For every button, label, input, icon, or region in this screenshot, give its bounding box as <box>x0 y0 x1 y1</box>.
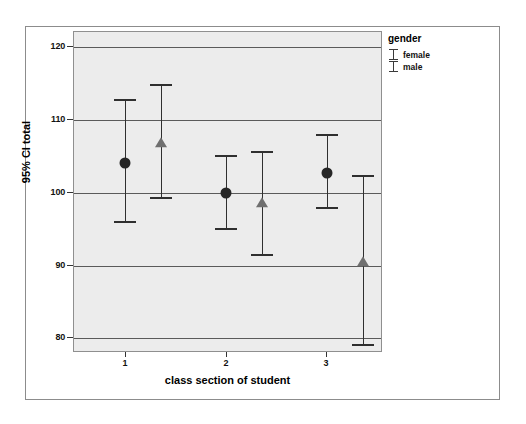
gridline-110 <box>74 120 381 121</box>
y-axis-tick-label: 120 <box>51 41 65 51</box>
y-axis-tick-label: 80 <box>55 332 65 342</box>
whisker-cap-upper <box>352 175 374 177</box>
y-axis-tick-120: 120 <box>51 41 73 51</box>
x-axis-tick-label: 3 <box>314 358 338 368</box>
whisker-cap-lower <box>215 228 237 230</box>
y-axis-tick-label: 100 <box>51 187 65 197</box>
data-point-male-section-1 <box>155 137 167 147</box>
y-axis-tick-label: 110 <box>51 114 65 124</box>
x-axis-title: class section of student <box>73 374 382 386</box>
gridline-80 <box>74 338 381 339</box>
data-point-male-section-2 <box>256 197 268 207</box>
x-axis-tick-mark <box>226 352 227 357</box>
x-axis-tick-label: 2 <box>214 358 238 368</box>
x-axis-tick-label: 1 <box>113 358 137 368</box>
y-axis-tick-100: 100 <box>51 187 73 197</box>
legend-item-male: male <box>388 61 492 72</box>
data-point-male-section-3 <box>357 256 369 266</box>
whisker-cap-lower <box>316 207 338 209</box>
data-point-female-section-2 <box>221 188 232 199</box>
whisker-cap-upper <box>150 84 172 86</box>
y-axis-tick-80: 80 <box>55 332 73 342</box>
data-point-female-section-1 <box>120 158 131 169</box>
gridline-90 <box>74 266 381 267</box>
gridline-120 <box>74 47 381 48</box>
whisker-cap-lower <box>251 254 273 256</box>
whisker-cap-upper <box>215 155 237 157</box>
data-point-female-section-3 <box>322 168 333 179</box>
legend: gender female male <box>388 33 492 73</box>
legend-item-label: female <box>403 50 430 60</box>
whisker-cap-lower <box>352 344 374 346</box>
x-axis-tick-2: 2 <box>214 352 238 368</box>
y-axis: 120 110 100 90 80 <box>30 31 73 352</box>
error-bar-icon <box>388 49 399 60</box>
whisker-cap-upper <box>316 134 338 136</box>
y-axis-tick-label: 90 <box>55 260 65 270</box>
error-bar-chart: 120 110 100 90 80 95% CI total <box>0 0 526 424</box>
y-axis-title: 95% CI total <box>20 82 32 222</box>
plot-area <box>73 31 382 352</box>
y-axis-tick-90: 90 <box>55 260 73 270</box>
x-axis-tick-3: 3 <box>314 352 338 368</box>
whisker-cap-upper <box>114 99 136 101</box>
x-axis-tick-1: 1 <box>113 352 137 368</box>
legend-item-label: male <box>403 62 422 72</box>
legend-title: gender <box>388 33 492 44</box>
error-bar-icon <box>388 61 399 72</box>
whisker-cap-lower <box>114 221 136 223</box>
whisker-cap-upper <box>251 151 273 153</box>
x-axis-tick-mark <box>326 352 327 357</box>
whisker-cap-lower <box>150 197 172 199</box>
y-axis-tick-110: 110 <box>51 114 73 124</box>
legend-item-female: female <box>388 49 492 60</box>
x-axis-tick-mark <box>125 352 126 357</box>
